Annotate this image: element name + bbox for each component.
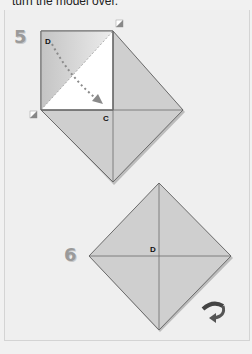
step-6-diagram: D	[89, 183, 233, 332]
label-d: D	[150, 245, 156, 254]
step-5-diagram: D C	[30, 20, 185, 185]
origami-diagrams: D C D	[0, 0, 252, 354]
turn-over-icon	[203, 304, 224, 323]
label-d: D	[45, 37, 51, 46]
label-c: C	[103, 114, 109, 123]
corner-marker-icon	[30, 111, 37, 118]
corner-marker-icon	[116, 20, 123, 27]
